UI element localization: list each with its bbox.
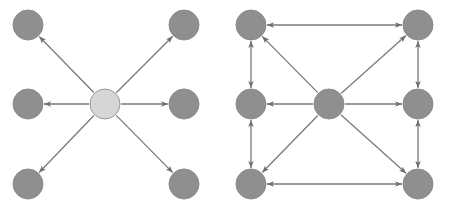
peripheral-node-bl [236, 169, 266, 199]
network-diagrams [0, 0, 450, 211]
peripheral-node-bl [13, 169, 43, 199]
edge-c-bl [39, 116, 94, 173]
peripheral-node-ml [13, 89, 43, 119]
edge-c-br [116, 115, 173, 172]
peripheral-node-mr [169, 89, 199, 119]
edge-c-bl [262, 116, 318, 173]
edge-c-tr [341, 36, 406, 94]
edge-c-tr [116, 36, 172, 92]
edge-c-tl [262, 36, 318, 92]
peripheral-node-tr [403, 10, 433, 40]
peripheral-node-tl [13, 10, 43, 40]
peripheral-node-br [403, 169, 433, 199]
peripheral-node-br [169, 169, 199, 199]
peripheral-node-mr [403, 89, 433, 119]
edge-c-br [341, 115, 406, 174]
center-node [90, 89, 120, 119]
peripheral-node-ml [236, 89, 266, 119]
star-topology-diagram [13, 10, 199, 199]
center-node [314, 89, 344, 119]
peripheral-node-tl [236, 10, 266, 40]
peripheral-node-tr [169, 10, 199, 40]
edge-c-tl [39, 37, 94, 93]
mesh-topology-diagram [236, 10, 433, 199]
